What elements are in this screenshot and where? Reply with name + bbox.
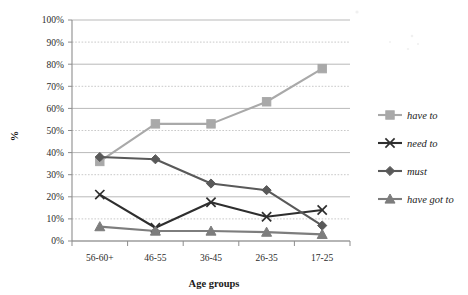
x-axis-tick-labels: 56-60+46-5536-4526-3517-25 [86, 253, 333, 263]
x-tick-label: 46-55 [144, 253, 166, 263]
y-tick-label: 60% [47, 104, 65, 114]
scan-speck [355, 10, 358, 13]
gridlines [72, 20, 350, 241]
x-tick-label: 17-25 [311, 253, 333, 263]
y-tick-label: 10% [47, 214, 65, 224]
series-have-got-to [95, 222, 327, 239]
x-tick-label: 56-60+ [86, 253, 114, 263]
legend-item-label: need to [407, 138, 438, 149]
y-tick-label: 90% [47, 38, 65, 48]
scan-speck [389, 41, 391, 43]
marker-diamond-pt1 [151, 155, 160, 164]
y-tick-label: 40% [47, 148, 65, 158]
legend-item-need-to[interactable]: need to [378, 138, 438, 149]
scan-speck [407, 48, 409, 50]
series-line [100, 195, 322, 228]
legend-item-have-got-to[interactable]: have got to [378, 194, 454, 205]
y-tick-label: 0% [51, 236, 64, 246]
line-chart: 0%10%20%30%40%50%60%70%80%90%100% 56-60+… [0, 0, 468, 295]
legend-item-label: must [407, 166, 428, 177]
x-axis-title: Age groups [189, 278, 240, 289]
x-tick-label: 26-35 [256, 253, 278, 263]
scan-artifacts [355, 10, 419, 50]
legend-item-label: have got to [407, 194, 454, 205]
x-tick-label: 36-45 [200, 253, 222, 263]
legend-item-must[interactable]: must [378, 166, 428, 177]
y-axis-tick-labels: 0%10%20%30%40%50%60%70%80%90%100% [42, 15, 64, 246]
y-tick-label: 70% [47, 82, 65, 92]
marker-square-pt4 [318, 64, 326, 72]
marker-x-pt0 [95, 190, 104, 199]
legend: have toneed tomusthave got to [378, 110, 454, 205]
legend-item-have-to[interactable]: have to [378, 110, 438, 121]
marker-square-pt2 [207, 120, 215, 128]
legend-item-label: have to [407, 110, 438, 121]
series-line [100, 69, 322, 162]
y-tick-label: 50% [47, 126, 65, 136]
y-tick-label: 20% [47, 192, 65, 202]
marker-square-pt3 [262, 98, 270, 106]
y-axis-title: % [9, 131, 20, 142]
y-tick-label: 80% [47, 60, 65, 70]
y-tick-label: 100% [42, 15, 64, 25]
marker-square-legend [386, 111, 394, 119]
series-have-to [96, 64, 327, 165]
scan-speck [417, 43, 419, 45]
marker-diamond-legend [385, 166, 394, 175]
scan-speck [411, 35, 414, 38]
chart-canvas: 0%10%20%30%40%50%60%70%80%90%100% 56-60+… [0, 0, 468, 295]
data-series [95, 64, 327, 238]
y-tick-label: 30% [47, 170, 65, 180]
marker-diamond-pt2 [206, 179, 215, 188]
marker-square-pt1 [151, 120, 159, 128]
